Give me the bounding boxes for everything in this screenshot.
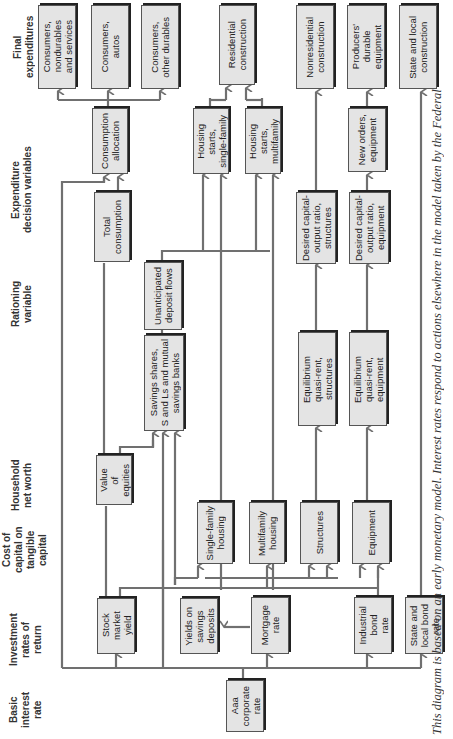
box-new-orders-equipment: New orders, equipment [348,108,386,172]
box-aaa-corporate-rate: Aaa corporate rate [226,680,264,732]
header-rationing-variable: Rationing variable [4,274,40,334]
box-multifamily-housing: Multifamily housing [249,502,285,564]
box-total-consumption: Total consumption [94,192,130,262]
box-equipment: Equipment [352,502,390,564]
flow-diagram: Final expenditures Expenditure decision … [0,0,453,739]
header-household-net-worth: Household net worth [4,450,40,520]
box-industrial-bond-rate: Industrial bond rate [354,597,392,654]
box-value-of-equities: Value of equities [96,455,132,505]
box-structures: Structures [300,502,338,564]
header-cost-of-capital: Cost of capital on tangible capital [0,520,50,580]
box-consumers-nondurables: Consumers, nondurables and services [38,5,76,89]
header-investment-rates: Investment rates of return [6,600,46,680]
box-consumers-other-durables: Consumers, other durables [141,5,179,89]
box-housing-starts-multi: Housing starts, multifamily [245,108,281,174]
box-savings-shares: Savings shares, S and Ls and mutual savi… [144,335,184,431]
box-equilibrium-equipment: Equilibrium quasi-rent, equipment [349,332,387,426]
header-final-expenditures: Final expenditures [6,12,42,82]
box-equilibrium-structures: Equilibrium quasi-rent, structures [298,332,336,426]
header-expenditure-decision: Expenditure decision variables [4,140,40,240]
box-consumers-autos: Consumers, autos [91,5,129,89]
box-unanticipated-deposit-flows: Unanticipated deposit flows [144,262,182,330]
box-stock-market-yield: Stock market yield [97,598,135,654]
box-producers-durable-equipment: Producers' durable equipment [347,5,385,89]
figure-caption: This diagram is based on an early moneta… [430,10,450,735]
box-desired-capital-equipment: Desired capital- output ratio, equipment [349,192,389,264]
header-basic-interest-rate: Basic interest rate [6,685,46,735]
box-desired-capital-structures: Desired capital- output ratio, structure… [296,192,336,264]
box-consumption-allocation: Consumption allocation [92,108,128,174]
box-mortgage-rate: Mortgage rate [251,597,289,654]
box-single-family-housing: Single-family housing [197,502,233,564]
box-yields-savings-deposits: Yields on savings deposits [180,598,218,654]
box-housing-starts-single: Housing starts, single-family [193,108,229,174]
box-nonresidential-construction: Nonresidential construction [296,5,334,89]
box-residential-construction: Residential construction [219,5,255,85]
